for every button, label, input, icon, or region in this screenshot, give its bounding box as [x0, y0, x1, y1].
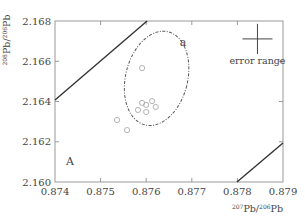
data-point [135, 107, 140, 112]
x-tick-label: 0.874 [41, 186, 70, 197]
boundary-lower-right [237, 143, 283, 182]
error-range-label: error range [229, 55, 285, 66]
y-tick-label: 2.160 [22, 177, 51, 188]
boundary-upper-left [55, 21, 147, 100]
data-point [150, 98, 155, 103]
y-tick-label: 2.168 [22, 16, 51, 27]
y-axis-label: 208Pb/206Pb [1, 14, 12, 65]
data-point [124, 127, 129, 132]
x-tick-label: 0.876 [132, 186, 161, 197]
error-range-marker: error range [229, 24, 285, 66]
x-axis-label: 207Pb/206Pb [232, 203, 283, 214]
data-points [114, 65, 158, 132]
x-tick-label: 0.875 [86, 186, 115, 197]
data-point [114, 117, 119, 122]
boundary-lines [55, 21, 283, 182]
x-tick-label: 0.878 [223, 186, 252, 197]
x-tick-label: 0.879 [269, 186, 298, 197]
y-tick-label: 2.164 [22, 96, 51, 107]
x-tick-label: 0.877 [177, 186, 206, 197]
y-tick-label: 2.166 [22, 56, 51, 67]
data-point [139, 65, 144, 70]
y-tick-label: 2.162 [22, 136, 51, 147]
scatter-chart: 0.8740.8750.8760.8770.8780.8792.1602.162… [0, 0, 305, 222]
label-a: a [180, 36, 187, 49]
data-point [153, 104, 158, 109]
plot-axes: 0.8740.8750.8760.8770.8780.8792.1602.162… [22, 16, 297, 198]
plot-frame [55, 21, 283, 182]
label-A: A [65, 155, 75, 168]
data-point [144, 109, 149, 114]
